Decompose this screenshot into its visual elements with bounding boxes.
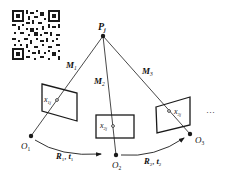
label-o2: O2 <box>112 160 122 171</box>
label-point-p: Pj <box>98 21 106 33</box>
image-point-1 <box>56 99 59 102</box>
world-point <box>101 34 105 38</box>
motion-arrow-2 <box>121 138 184 155</box>
camera-center-1 <box>29 134 33 138</box>
label-m3: M3 <box>141 66 153 77</box>
label-o3: O3 <box>195 135 205 146</box>
camera-center-2 <box>114 153 118 157</box>
label-m2: M2 <box>93 76 105 87</box>
image-point-3 <box>168 110 171 113</box>
ray-3 <box>103 36 190 134</box>
label-x1j: x1j <box>43 95 52 105</box>
label-m1: M1 <box>65 60 77 71</box>
ellipsis: … <box>206 105 215 115</box>
label-x2j: x2j <box>99 121 108 131</box>
qr-code <box>12 10 60 60</box>
label-o1: O1 <box>21 141 31 152</box>
label-motion-1: R1, t1 <box>55 151 74 162</box>
label-x3j: x3j <box>173 107 182 117</box>
image-point-2 <box>112 125 115 128</box>
ray-2 <box>103 36 116 155</box>
multi-view-diagram: Pj M1 M2 M3 x1j x2j x3j O1 O2 O3 R1, t1 … <box>0 0 225 183</box>
label-motion-2: R2, t2 <box>143 156 162 167</box>
camera-center-3 <box>188 132 192 136</box>
